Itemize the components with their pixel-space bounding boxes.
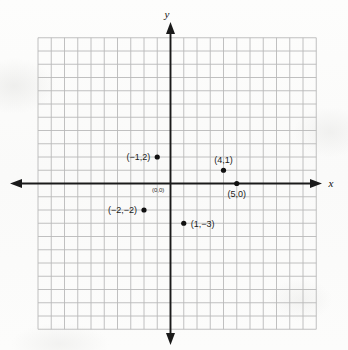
data-point-marker — [155, 154, 160, 159]
data-point-label: (−1,2) — [126, 152, 150, 162]
x-axis-left-arrowhead — [10, 179, 22, 188]
axis-lines — [10, 22, 322, 345]
data-point-marker — [221, 168, 226, 173]
origin-label: (0,0) — [152, 187, 164, 193]
data-point-label: (5,0) — [227, 189, 246, 199]
data-point-marker — [181, 221, 186, 226]
plotted-points: (−1,2)(4,1)(5,0)(−2,−2)(1,−3) — [108, 152, 246, 228]
x-axis-label: x — [328, 177, 334, 189]
coordinate-plane-svg: y x (0,0) (−1,2)(4,1)(5,0)(−2,−2)(1,−3) — [0, 0, 348, 350]
y-axis-label: y — [164, 8, 170, 20]
data-point-marker — [141, 207, 146, 212]
coordinate-plane-figure: y x (0,0) (−1,2)(4,1)(5,0)(−2,−2)(1,−3) — [0, 0, 348, 350]
data-point-label: (−2,−2) — [108, 205, 137, 215]
data-point-label: (4,1) — [214, 155, 233, 165]
data-point-label: (1,−3) — [191, 219, 215, 229]
data-point-marker — [234, 181, 239, 186]
y-axis-top-arrowhead — [166, 22, 175, 34]
y-axis-bottom-arrowhead — [166, 333, 175, 345]
